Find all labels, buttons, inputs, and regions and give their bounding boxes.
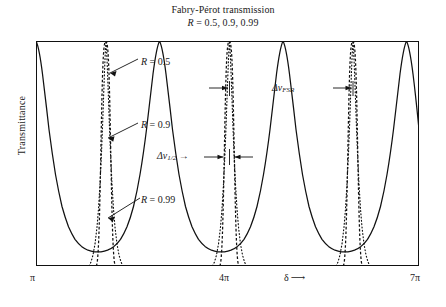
subtitle-symbol: R (187, 17, 193, 28)
annotation-r-0-9-value: = 0.9 (150, 119, 171, 130)
annotation-r-0-9-symbol: R (141, 119, 147, 130)
fsr-subscript: FSR (282, 86, 294, 94)
annotation-r-0-5-symbol: R (141, 56, 147, 67)
y-axis-label: Transmittance (16, 61, 27, 191)
annotation-r-0-5: R = 0.5 (141, 56, 170, 67)
x-axis-arrow-icon: ⟶ (291, 272, 304, 283)
annotation-r-0-99-symbol: R (141, 194, 147, 205)
annotation-r-0-99: R = 0.99 (141, 194, 175, 205)
figure-container: Fabry-Pérot transmission R = 0.5, 0.9, 0… (0, 0, 446, 307)
x-axis-label: δ⟶ (284, 272, 304, 283)
annotation-r-0-5-value: = 0.5 (150, 56, 171, 67)
transmittance-curves (36, 41, 419, 266)
x-tick-right: 7π (410, 272, 420, 283)
x-tick-mid: 4π (219, 272, 229, 283)
leader-line-r-0-5 (110, 59, 138, 77)
subtitle-values: = 0.5, 0.9, 0.99 (196, 17, 258, 28)
figure-title-block: Fabry-Pérot transmission R = 0.5, 0.9, 0… (0, 3, 446, 29)
fsr-symbol: Δν (272, 82, 282, 93)
halfwidth-subscript: 1/2 (167, 154, 176, 162)
figure-subtitle: R = 0.5, 0.9, 0.99 (0, 16, 446, 29)
annotation-fsr: ΔνFSR (272, 82, 294, 94)
halfwidth-arrow-icon: → (179, 150, 189, 161)
annotation-r-0-9: R = 0.9 (141, 119, 170, 130)
halfwidth-symbol: Δν (157, 150, 167, 161)
annotation-halfwidth: Δν1/2 → (157, 150, 189, 162)
x-axis-symbol: δ (284, 272, 289, 283)
x-tick-left: π (30, 272, 35, 283)
figure-title: Fabry-Pérot transmission (0, 3, 446, 16)
halfwidth-arrows (204, 149, 253, 165)
annotation-r-0-99-value: = 0.99 (150, 194, 176, 205)
leader-line-r-0-9 (108, 123, 138, 142)
